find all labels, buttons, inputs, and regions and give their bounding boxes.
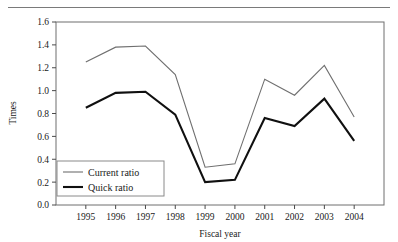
y-axis-tick-label: 0.2 (37, 178, 49, 188)
y-axis-tick-label: 1.4 (37, 40, 49, 50)
legend-label-quick-ratio: Quick ratio (88, 182, 133, 193)
x-axis-tick-label: 1998 (166, 212, 185, 222)
x-axis-tick-label: 2004 (345, 212, 364, 222)
x-axis-tick-label: 1999 (196, 212, 215, 222)
x-axis-tick-label: 1995 (76, 212, 95, 222)
y-axis-tick-label: 1.6 (37, 17, 49, 27)
series-line-current-ratio (86, 46, 354, 167)
x-axis-tick-label: 1996 (106, 212, 125, 222)
line-chart: 0.00.20.40.60.81.01.21.41.6 199519961997… (0, 0, 398, 242)
chart-plot-area: 0.00.20.40.60.81.01.21.41.6 199519961997… (0, 0, 398, 242)
y-axis: 0.00.20.40.60.81.01.21.41.6 (37, 17, 56, 210)
y-axis-title: Times (8, 101, 18, 125)
x-axis-tick-label: 2000 (225, 212, 244, 222)
y-axis-tick-label: 0.0 (37, 200, 49, 210)
x-axis: 1995199619971998199920002001200220032004 (76, 205, 364, 222)
x-axis-tick-label: 2003 (315, 212, 334, 222)
legend-label-current-ratio: Current ratio (88, 167, 139, 178)
x-axis-tick-label: 2001 (255, 212, 274, 222)
chart-legend: Current ratio Quick ratio (57, 161, 164, 196)
x-axis-tick-label: 1997 (136, 212, 155, 222)
x-axis-title: Fiscal year (199, 229, 241, 239)
y-axis-tick-label: 0.6 (37, 132, 49, 142)
y-axis-tick-label: 0.4 (37, 155, 49, 165)
x-axis-tick-label: 2002 (285, 212, 304, 222)
y-axis-tick-label: 0.8 (37, 109, 49, 119)
figure-container: 0.00.20.40.60.81.01.21.41.6 199519961997… (0, 0, 398, 242)
y-axis-tick-label: 1.2 (37, 63, 49, 73)
y-axis-tick-label: 1.0 (37, 86, 49, 96)
